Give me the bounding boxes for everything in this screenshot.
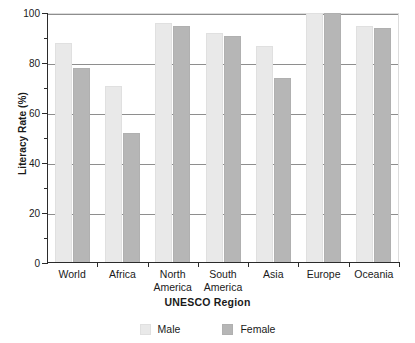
- legend-item-male: Male: [140, 323, 181, 335]
- y-tick-label-100: 100: [23, 8, 40, 19]
- y-tick-label-40: 40: [29, 158, 40, 169]
- x-tick-2: [148, 263, 149, 267]
- x-category-label-south-america: SouthAmerica: [198, 268, 248, 293]
- bar-oceania-male: [356, 26, 373, 264]
- bar-oceania-female: [374, 28, 391, 263]
- bar-world-female: [73, 68, 90, 263]
- bar-europe-female: [324, 13, 341, 263]
- bar-africa-male: [105, 86, 122, 264]
- bar-north-america-male: [155, 23, 172, 263]
- plot-area: [47, 13, 399, 263]
- x-category-label-oceania: Oceania: [349, 268, 399, 281]
- bar-europe-male: [306, 13, 323, 263]
- bar-asia-male: [256, 46, 273, 264]
- bar-south-america-female: [224, 36, 241, 264]
- y-tick-label-20: 20: [29, 208, 40, 219]
- x-tick-5: [298, 263, 299, 267]
- x-category-label-north-america: NorthAmerica: [148, 268, 198, 293]
- x-axis-title: UNESCO Region: [0, 296, 415, 308]
- x-tick-3: [198, 263, 199, 267]
- y-tick-label-60: 60: [29, 108, 40, 119]
- x-category-label-europe: Europe: [298, 268, 348, 281]
- legend-label-male: Male: [158, 323, 181, 335]
- legend-swatch-female: [222, 324, 233, 335]
- y-axis-title: Literacy Rate (%): [17, 64, 28, 204]
- y-axis-line: [47, 13, 48, 263]
- chart-legend: Male Female: [0, 320, 415, 338]
- bar-south-america-male: [206, 33, 223, 263]
- y-tick-label-0: 0: [34, 258, 40, 269]
- x-category-label-africa: Africa: [97, 268, 147, 281]
- x-category-label-asia: Asia: [248, 268, 298, 281]
- bar-series-container: [47, 14, 398, 263]
- legend-label-female: Female: [240, 323, 275, 335]
- bar-world-male: [55, 43, 72, 263]
- literacy-rate-bar-chart: Literacy Rate (%) 020406080100 WorldAfri…: [0, 0, 415, 343]
- legend-item-female: Female: [222, 323, 275, 335]
- x-tick-4: [248, 263, 249, 267]
- x-category-label-world: World: [47, 268, 97, 281]
- bar-asia-female: [274, 78, 291, 263]
- x-tick-end: [399, 263, 400, 267]
- y-tick-label-80: 80: [29, 58, 40, 69]
- bar-africa-female: [123, 133, 140, 263]
- bar-north-america-female: [173, 26, 190, 264]
- x-tick-1: [97, 263, 98, 267]
- legend-swatch-male: [140, 324, 151, 335]
- x-tick-6: [349, 263, 350, 267]
